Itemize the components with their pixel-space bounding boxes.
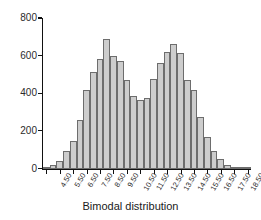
bimodal-histogram-chart: 0200400600800 4.505.506.507.508.509.5010…: [0, 0, 261, 220]
histogram-bar: [56, 161, 63, 169]
histogram-bar: [217, 159, 224, 168]
histogram-bar: [197, 117, 204, 169]
y-axis-tick-label: 200: [20, 126, 37, 136]
histogram-bar: [103, 39, 110, 169]
x-axis-tick-label: 12.50: [169, 172, 185, 192]
histogram-bar: [164, 52, 171, 169]
histogram-bar: [77, 120, 84, 169]
x-axis-tick-label: 7.50: [100, 172, 114, 189]
histogram-bar: [144, 98, 151, 169]
y-axis-tick-label: 400: [20, 88, 37, 98]
histogram-bar: [170, 44, 177, 168]
x-axis-tick-label: 6.50: [86, 172, 100, 189]
histogram-bar: [117, 61, 124, 169]
histogram-bar: [204, 137, 211, 169]
histogram-bar: [97, 59, 104, 168]
histogram-bar: [83, 90, 90, 169]
histogram-bar: [191, 90, 198, 169]
plot-area: [43, 18, 251, 169]
histogram-bar: [150, 79, 157, 169]
x-axis-tick-label: 4.50: [60, 172, 74, 189]
histogram-bar: [157, 63, 164, 169]
y-axis-tick-label: 0: [31, 164, 37, 174]
x-axis-tick-label: 9.50: [127, 172, 141, 189]
histogram-bar: [177, 53, 184, 168]
histogram-bar: [90, 72, 97, 169]
histogram-bar: [110, 56, 117, 168]
y-axis-tick-label: 600: [20, 51, 37, 61]
histogram-bar: [184, 80, 191, 169]
x-axis-tick-label: 5.50: [73, 172, 87, 189]
y-axis-tick-label: 800: [20, 13, 37, 23]
histogram-bar: [124, 80, 131, 169]
histogram-bar: [63, 151, 70, 169]
y-axis-tick-label-group: 0200400600800: [0, 0, 40, 220]
x-axis-title: Bimodal distribution: [0, 200, 261, 213]
x-axis-tick-label: 8.50: [113, 172, 127, 189]
histogram-bar: [70, 141, 77, 169]
histogram-bar: [130, 96, 137, 169]
histogram-bar: [211, 151, 218, 169]
histogram-bar: [137, 100, 144, 168]
